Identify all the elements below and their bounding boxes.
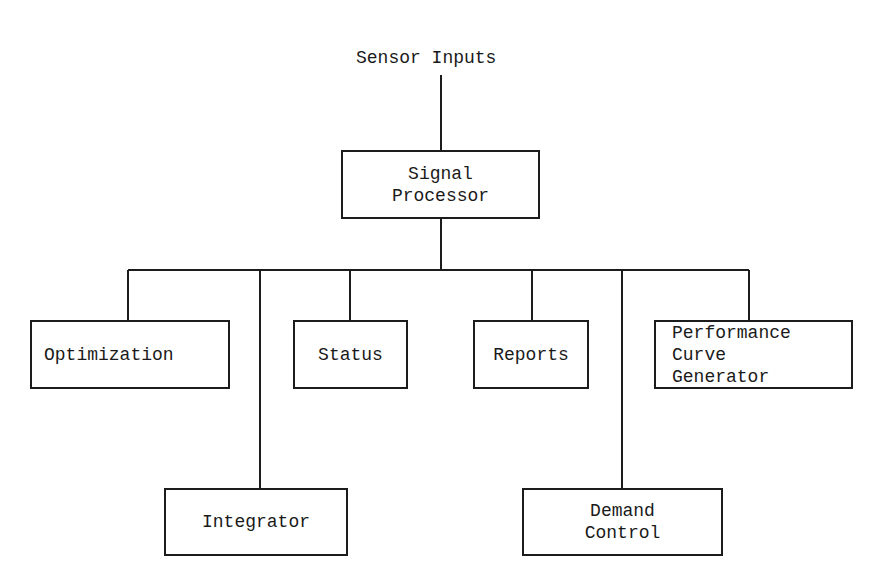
block-diagram: Sensor Inputs Signal Processor Optimizat… [0, 0, 879, 584]
performance-curve-generator-box: Performance Curve Generator [654, 320, 853, 389]
connector-lines [0, 0, 879, 584]
status-box: Status [293, 320, 408, 389]
reports-box: Reports [473, 320, 589, 389]
demand-control-box: Demand Control [522, 488, 723, 556]
optimization-box: Optimization [30, 320, 230, 389]
sensor-inputs-label: Sensor Inputs [356, 48, 496, 68]
signal-processor-box: Signal Processor [341, 150, 540, 219]
integrator-box: Integrator [164, 488, 348, 556]
